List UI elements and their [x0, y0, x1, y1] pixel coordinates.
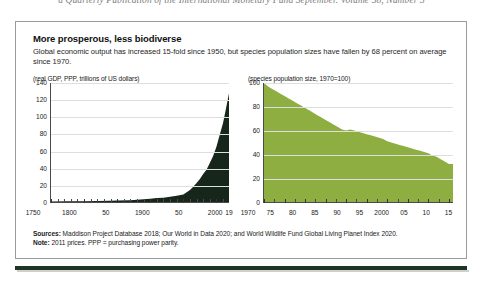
gdp-tick-mark: [117, 199, 118, 203]
gdp-tick-mark: [197, 199, 198, 202]
chart-panels: (real GDP, PPP, trillions of US dollars)…: [16, 74, 468, 226]
species-tick-mark: [428, 199, 429, 203]
gdp-tick-mark: [51, 199, 52, 203]
gdp-tick-mark: [203, 199, 204, 202]
gdp-x-tick-label: 2000: [208, 209, 223, 216]
gdp-x-tick-label: 1800: [62, 209, 77, 216]
species-x-tick-label: 10: [423, 209, 430, 216]
gdp-gridline: [51, 152, 229, 153]
species-x-tick-label: 85: [311, 209, 318, 216]
species-gridline: [264, 131, 453, 132]
gdp-gridline: [51, 117, 229, 118]
gdp-tick-mark: [163, 199, 164, 202]
note-line: Note: 2011 prices. PPP = purchasing powe…: [33, 238, 452, 247]
gdp-tick-mark: [210, 199, 211, 202]
note-label: Note:: [33, 239, 50, 246]
species-y-tick-label: 80: [253, 104, 260, 110]
species-tick-mark: [356, 199, 357, 202]
running-head: a Quarterly Publication of the Internati…: [0, 0, 483, 11]
gdp-x-tick-label: 19: [225, 209, 232, 216]
species-plot-area: [263, 83, 453, 203]
gdp-gridline: [51, 186, 229, 187]
species-plot-wrap: 020406080100 197075808590952000051015: [248, 83, 453, 219]
gdp-plot-area: [50, 83, 229, 203]
gdp-tick-mark: [104, 199, 105, 202]
gdp-x-tick-label: 1900: [135, 209, 150, 216]
species-x-ticks: [264, 199, 453, 203]
gdp-tick-mark: [64, 199, 65, 202]
figure-box: More prosperous, less biodiverse Global …: [15, 21, 467, 259]
gdp-tick-mark: [91, 199, 92, 202]
figure-header: More prosperous, less biodiverse Global …: [16, 22, 466, 66]
gdp-tick-mark: [144, 199, 145, 202]
gdp-tick-mark: [190, 199, 191, 202]
gdp-tick-mark: [183, 199, 184, 203]
sources-label: Sources:: [33, 230, 61, 237]
chart-panel-gdp: (real GDP, PPP, trillions of US dollars)…: [33, 74, 229, 226]
species-tick-mark: [274, 199, 275, 202]
note-text: 2011 prices. PPP = purchasing power pari…: [50, 239, 179, 246]
species-x-tick-label: 05: [400, 209, 407, 216]
species-tick-mark: [418, 199, 419, 202]
species-gridline: [264, 179, 453, 180]
gdp-unit-label: (real GDP, PPP, trillions of US dollars): [33, 74, 229, 83]
species-tick-mark: [398, 199, 399, 202]
figure-title: More prosperous, less biodiverse: [33, 33, 452, 44]
species-tick-mark: [367, 199, 368, 203]
gdp-gridline: [51, 100, 229, 101]
species-x-tick-label: 15: [445, 209, 452, 216]
gdp-plot-wrap: 020406080100120140 175018005019005020001…: [33, 83, 229, 219]
gdp-tick-mark: [130, 199, 131, 202]
gdp-tick-mark: [150, 199, 151, 203]
species-tick-mark: [264, 199, 265, 203]
gdp-tick-mark: [157, 199, 158, 202]
species-x-axis-labels: 197075808590952000051015: [248, 206, 453, 220]
species-area-series: [264, 83, 453, 202]
species-tick-mark: [295, 199, 296, 202]
species-tick-mark: [346, 199, 347, 203]
species-tick-mark: [285, 199, 286, 203]
species-unit-label: (species population size, 1970=100): [248, 74, 453, 83]
species-x-tick-label: 90: [333, 209, 340, 216]
species-tick-mark: [326, 199, 327, 203]
gdp-y-tick-label: 120: [36, 97, 47, 103]
running-head-text: a Quarterly Publication of the Internati…: [0, 0, 483, 5]
gdp-gridline: [51, 169, 229, 170]
gdp-tick-mark: [223, 199, 224, 202]
species-tick-mark: [315, 199, 316, 202]
gdp-tick-mark: [137, 199, 138, 202]
gdp-tick-mark: [170, 199, 171, 202]
species-y-tick-label: 20: [253, 176, 260, 182]
gdp-tick-mark: [77, 199, 78, 202]
gdp-tick-mark: [84, 199, 85, 203]
gdp-x-ticks: [51, 199, 229, 203]
species-gridline: [264, 107, 453, 108]
gdp-tick-mark: [71, 199, 72, 202]
species-tick-mark: [439, 199, 440, 202]
species-x-tick-label: 2000: [374, 209, 389, 216]
gdp-tick-mark: [124, 199, 125, 202]
species-y-tick-label: 100: [249, 80, 260, 86]
species-tick-mark: [408, 199, 409, 203]
gdp-y-tick-label: 40: [40, 166, 47, 172]
sources-line: Sources: Maddison Project Database 2018;…: [33, 229, 452, 238]
gdp-tick-mark: [97, 199, 98, 202]
gdp-gridline: [51, 83, 229, 84]
gdp-y-tick-label: 140: [36, 80, 47, 86]
species-y-tick-label: 60: [253, 128, 260, 134]
species-x-tick-label: 75: [267, 209, 274, 216]
gdp-x-axis-labels: 1750180050190050200019: [33, 206, 229, 220]
species-tick-mark: [305, 199, 306, 203]
species-tick-mark: [387, 199, 388, 203]
sources-text: Maddison Project Database 2018; Our Worl…: [61, 230, 398, 237]
gdp-x-tick-label: 50: [175, 209, 182, 216]
gdp-tick-mark: [111, 199, 112, 202]
species-y-axis-labels: 020406080100: [248, 83, 262, 203]
gdp-y-axis-labels: 020406080100120140: [33, 83, 49, 203]
species-gridline: [264, 83, 453, 84]
species-gridline: [264, 155, 453, 156]
gdp-y-tick-label: 60: [40, 149, 47, 155]
gdp-y-tick-label: 20: [40, 183, 47, 189]
species-tick-mark: [449, 199, 450, 203]
species-y-tick-label: 40: [253, 152, 260, 158]
